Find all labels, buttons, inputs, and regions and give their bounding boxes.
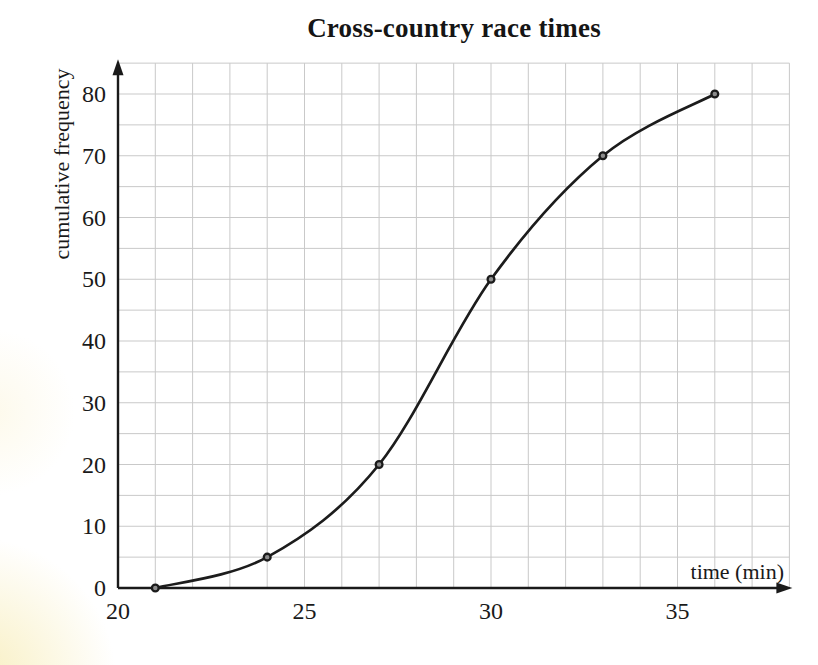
- data-point-marker: [488, 276, 495, 283]
- x-tick-label: 35: [666, 598, 690, 624]
- data-point-marker: [264, 554, 271, 561]
- y-tick-label: 30: [82, 390, 106, 416]
- x-tick-label: 25: [293, 598, 317, 624]
- y-tick-label: 10: [82, 513, 106, 539]
- y-tick-label: 0: [94, 575, 106, 601]
- x-tick-label: 30: [479, 598, 503, 624]
- y-axis-arrowhead-icon: [113, 59, 124, 75]
- y-tick-label: 20: [82, 452, 106, 478]
- y-tick-label: 80: [82, 81, 106, 107]
- x-tick-label: 20: [106, 598, 130, 624]
- data-point-marker: [600, 152, 607, 159]
- chart-figure: Cross-country race times cumulative freq…: [0, 0, 818, 665]
- data-point-marker: [152, 585, 159, 592]
- y-tick-label: 60: [82, 205, 106, 231]
- x-axis-title: time (min): [691, 559, 784, 585]
- data-point-marker: [711, 91, 718, 98]
- y-tick-label: 50: [82, 266, 106, 292]
- y-tick-label: 70: [82, 143, 106, 169]
- data-point-marker: [376, 461, 383, 468]
- y-tick-label: 40: [82, 328, 106, 354]
